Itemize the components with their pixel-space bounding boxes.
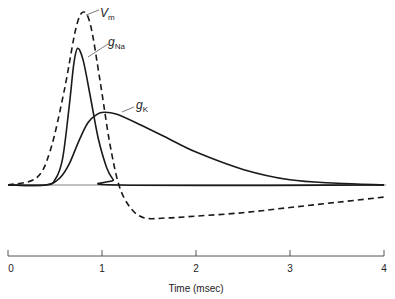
- x-tick-label: 3: [287, 263, 293, 274]
- x-tick-label: 2: [193, 263, 199, 274]
- curve-gna: [8, 48, 384, 185]
- x-axis-label: Time (msec): [168, 283, 223, 294]
- svg-text:gNa: gNa: [108, 35, 125, 51]
- svg-text:gK: gK: [136, 98, 149, 114]
- x-tick-label: 1: [99, 263, 105, 274]
- action-potential-chart: Vm gNa gK 01234 Time (msec): [0, 0, 395, 299]
- x-tick-label: 4: [381, 263, 387, 274]
- x-tick-label: 0: [8, 263, 14, 274]
- curves: [8, 12, 384, 219]
- label-gna-sub: Na: [115, 42, 126, 51]
- x-axis: 01234 Time (msec): [8, 250, 387, 294]
- curve-vm: [8, 12, 384, 219]
- label-vm: Vm: [86, 6, 115, 22]
- label-vm-sub: m: [108, 13, 115, 22]
- label-gk-sub: K: [143, 105, 149, 114]
- svg-text:Vm: Vm: [100, 6, 115, 22]
- label-gk: gK: [122, 98, 149, 114]
